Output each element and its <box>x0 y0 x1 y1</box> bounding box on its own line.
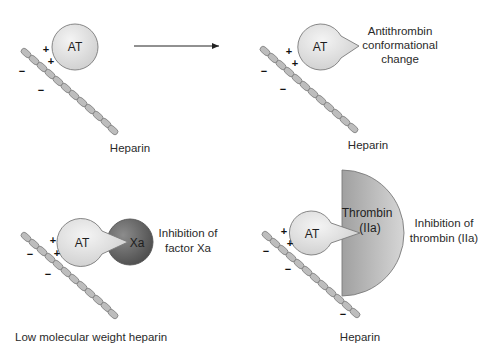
negative-charge: − <box>263 245 269 257</box>
lmw-heparin-label: Low molecular weight heparin <box>15 331 167 343</box>
heparin-label: Heparin <box>348 139 388 151</box>
at-label: AT <box>75 236 90 250</box>
annotation-line: conformational <box>362 39 437 51</box>
annotation-line: Antithrombin <box>368 25 433 37</box>
negative-charge: − <box>280 83 286 95</box>
positive-charge: + <box>286 45 292 57</box>
thrombin-label-line: Thrombin <box>342 206 393 220</box>
annotation-line: change <box>381 53 419 65</box>
xa-label: Xa <box>130 236 145 250</box>
negative-charge: − <box>285 263 291 275</box>
annotation-line: Inhibition of <box>159 227 219 239</box>
negative-charge: − <box>340 308 346 320</box>
negative-charge: − <box>45 268 51 280</box>
panel-conformational-change: AT + + − − Antithrombin conformational c… <box>259 24 438 151</box>
heparin-label: Heparin <box>110 142 150 154</box>
at-label: AT <box>68 40 83 54</box>
positive-charge: + <box>281 225 287 237</box>
annotation-line: factor Xa <box>165 242 212 254</box>
heparin-mechanism-diagram: AT + + − − Heparin AT + + − − Antithromb <box>0 0 494 356</box>
positive-charge: + <box>287 237 293 249</box>
panel-factor-xa-inhibition: AT Xa + + − − Inhibition of factor Xa Lo… <box>15 219 218 344</box>
at-label: AT <box>313 40 328 54</box>
negative-charge: − <box>19 65 25 77</box>
thrombin-label-line: (IIa) <box>359 221 380 235</box>
negative-charge: − <box>27 248 33 260</box>
positive-charge: + <box>292 57 298 69</box>
annotation-line: thrombin (IIa) <box>410 232 479 244</box>
panel-thrombin-inhibition: AT Thrombin (IIa) + + − − − Inhibition o… <box>261 170 478 343</box>
positive-charge: + <box>50 234 56 246</box>
at-label: AT <box>305 227 320 241</box>
heparin-label: Heparin <box>340 331 380 343</box>
panel-binding: AT + + − − Heparin <box>19 24 150 154</box>
positive-charge: + <box>43 43 49 55</box>
positive-charge: + <box>54 247 60 259</box>
annotation-line: Inhibition of <box>415 217 475 229</box>
negative-charge: − <box>38 84 44 96</box>
positive-charge: + <box>48 55 54 67</box>
antithrombin-activated-molecule <box>298 24 359 70</box>
negative-charge: − <box>261 65 267 77</box>
